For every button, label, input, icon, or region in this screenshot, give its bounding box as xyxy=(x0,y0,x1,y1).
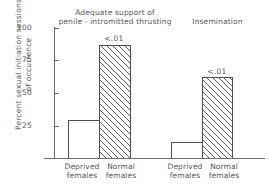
y-axis-title-line2: of occurrence xyxy=(23,0,33,140)
panel1-title: Adequate support of penile - intromitted… xyxy=(55,8,175,26)
y-tick-mark-25 xyxy=(54,126,59,127)
panel2-xlabel-normal-females: Normal females xyxy=(203,162,245,180)
y-axis-title-line1: Percent sexual initiation sessions xyxy=(14,0,24,140)
panel1-xlabel-normal-females: Normal females xyxy=(100,162,142,180)
panel1-xlabel-deprived-females: Deprived females xyxy=(58,162,106,180)
y-tick-mark-50 xyxy=(54,93,59,94)
panel1-xlabel-deprived-line1: Deprived xyxy=(58,162,106,171)
panel2-significance-label: <.01 xyxy=(187,68,247,76)
panel1-xlabel-normal-line2: females xyxy=(100,171,142,180)
panel1-bar-deprived-females xyxy=(68,120,100,158)
panel1-xlabel-deprived-line2: females xyxy=(58,171,106,180)
panel1-bar-normal-females xyxy=(99,45,131,158)
panel2-bar-deprived-females xyxy=(171,142,203,158)
panel2-xlabel-deprived-line1: Deprived xyxy=(161,162,209,171)
panel1-significance-label: <.01 xyxy=(84,35,144,43)
panel1-title-line2: penile - intromitted thrusting xyxy=(55,17,175,26)
panel2-xlabel-deprived-females: Deprived females xyxy=(161,162,209,180)
bar-chart-figure: 100 75 50 25 Percent sexual initiation s… xyxy=(0,0,270,191)
panel2-title-line1: Insemination xyxy=(170,17,265,26)
panel2-xlabel-normal-line1: Normal xyxy=(203,162,245,171)
panel2-title: Insemination xyxy=(170,17,265,26)
panel2-xlabel-deprived-line2: females xyxy=(161,171,209,180)
y-tick-mark-75 xyxy=(54,60,59,61)
y-axis-title: Percent sexual initiation sessions of oc… xyxy=(14,0,33,140)
panel2-bar-normal-females xyxy=(202,77,233,158)
panel1-title-line1: Adequate support of xyxy=(55,8,175,17)
panel2-xlabel-normal-line2: females xyxy=(203,171,245,180)
panel1-xlabel-normal-line1: Normal xyxy=(100,162,142,171)
y-tick-mark-100 xyxy=(54,28,59,29)
x-axis-line xyxy=(44,158,265,159)
